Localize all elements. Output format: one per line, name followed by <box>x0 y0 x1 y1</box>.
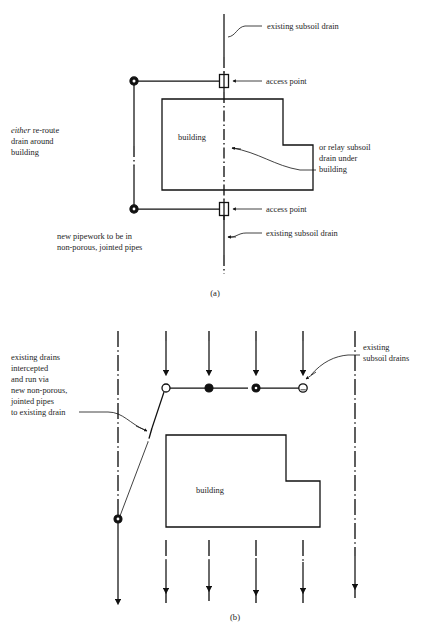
new-pipe-run-break <box>148 428 152 442</box>
new-pipe-run-upper <box>152 392 164 428</box>
leader-existing-subsoil-drain-top <box>228 26 262 37</box>
label-relay-subsoil-line2: drain under <box>319 154 358 163</box>
leader-existing-subsoil-drain-bottom <box>228 233 262 237</box>
label-reroute-line1: either re-route <box>11 126 59 135</box>
label-access-point-top: access point <box>266 77 307 86</box>
collector-node-3-center <box>255 387 258 390</box>
label-existing-subsoil-drains-line2: subsoil drains <box>363 354 409 363</box>
label-intercept-line2: intercepted <box>11 364 49 373</box>
label-intercept-line4: new non-porous, <box>11 386 67 395</box>
collector-node-1 <box>162 384 170 392</box>
leader-arrow-relay-subsoil <box>232 148 241 149</box>
label-building-b: building <box>196 486 225 495</box>
new-pipe-run-lower <box>120 442 148 516</box>
label-relay-subsoil-line3: building <box>319 165 348 174</box>
label-new-pipework-line2: non-porous, jointed pipes <box>57 243 142 252</box>
leader-intercepted-drains <box>79 412 145 430</box>
label-intercept-line3: and run via <box>11 375 49 384</box>
label-existing-subsoil-drain-top: existing subsoil drain <box>267 22 339 31</box>
building-outline-b <box>166 435 320 527</box>
label-access-point-bottom: access point <box>266 205 307 214</box>
label-building-a: building <box>178 133 207 142</box>
building-outline-a <box>162 99 313 190</box>
label-new-pipework-line1: new pipework to be in <box>57 232 133 241</box>
label-intercept-line1: existing drains <box>11 353 60 362</box>
figure-canvas: existing subsoil drain access point acce… <box>0 0 430 638</box>
leader-arrow-intercepted-drains <box>136 426 147 431</box>
collector-node-2 <box>205 384 213 392</box>
reroute-node-top-center <box>133 80 136 83</box>
label-reroute-emphasis: either <box>11 126 31 135</box>
drain-node-b-col1-center <box>117 518 120 521</box>
leader-arrow-existing-subsoil-drains-b <box>306 372 316 379</box>
panel-b: existing drains intercepted and run via … <box>10 331 409 622</box>
leader-existing-subsoil-drains-b <box>311 355 360 375</box>
panel-a: existing subsoil drain access point acce… <box>11 14 371 298</box>
label-reroute-line3: building <box>11 148 40 157</box>
label-existing-subsoil-drain-bottom: existing subsoil drain <box>266 229 338 238</box>
label-intercept-line6: to existing drain <box>11 408 66 417</box>
label-reroute-line1-rest: re-route <box>31 126 60 135</box>
reroute-node-bottom-center <box>133 208 136 211</box>
label-relay-subsoil-line1: or relay subsoil <box>319 143 371 152</box>
label-reroute-line2: drain around <box>11 137 54 146</box>
drainage-figure: existing subsoil drain access point acce… <box>0 0 430 638</box>
label-existing-subsoil-drains-line1: existing <box>363 343 390 352</box>
collector-node-4 <box>299 384 307 392</box>
label-intercept-line5: jointed pipes <box>10 397 54 406</box>
caption-panel-a: (a) <box>210 288 220 298</box>
caption-panel-b: (b) <box>230 612 240 622</box>
leader-relay-subsoil <box>232 148 316 170</box>
